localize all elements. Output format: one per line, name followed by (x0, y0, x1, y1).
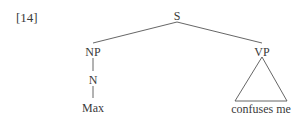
vp-triangle (235, 57, 287, 101)
leaf-max: Max (82, 102, 104, 114)
branch-s-np (93, 22, 177, 43)
node-vp: VP (254, 46, 269, 58)
leaf-confuses-me: confuses me (231, 103, 291, 115)
branch-s-vp (177, 22, 262, 43)
node-np: NP (85, 46, 100, 58)
node-n: N (89, 74, 98, 86)
node-s: S (174, 10, 181, 22)
